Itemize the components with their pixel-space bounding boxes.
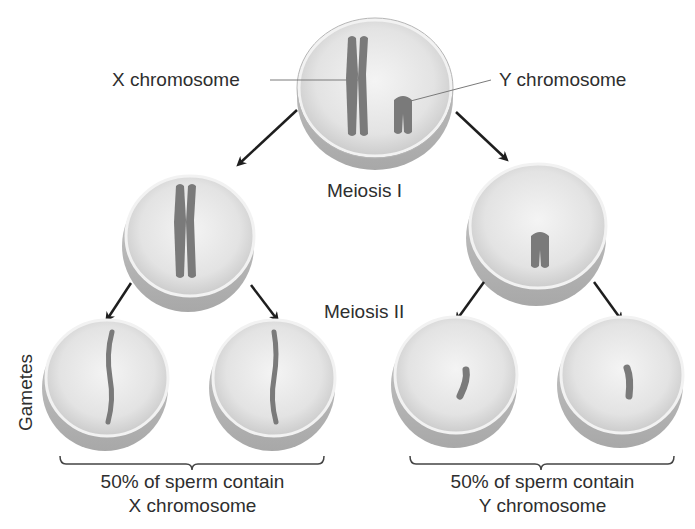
x-chromosome-label: X chromosome xyxy=(112,70,240,89)
arrow-to-y-gamete-2 xyxy=(594,282,620,318)
x-gamete-1 xyxy=(42,320,168,451)
y-gamete-2 xyxy=(557,317,683,448)
left-brace xyxy=(60,456,324,470)
x-gamete-2 xyxy=(209,320,335,451)
meiosis-1-label: Meiosis I xyxy=(327,181,402,200)
right-summary-line2: Y chromosome xyxy=(410,496,675,515)
arrow-to-y-cell xyxy=(456,112,505,158)
meiosis-2-label: Meiosis II xyxy=(324,302,404,321)
arrow-to-x-gamete-2 xyxy=(251,285,276,318)
meiosis1-x-cell xyxy=(122,176,254,312)
gametes-label: Gametes xyxy=(16,354,35,431)
parent-cell xyxy=(270,18,491,170)
right-brace xyxy=(410,456,674,470)
arrow-to-x-cell xyxy=(240,110,297,163)
left-summary-line2: X chromosome xyxy=(60,496,325,515)
meiosis1-y-cell xyxy=(466,164,606,306)
arrow-to-x-gamete-1 xyxy=(108,283,131,318)
arrow-to-y-gamete-1 xyxy=(458,282,484,318)
left-summary-line1: 50% of sperm contain xyxy=(60,472,325,491)
y-chromosome-label: Y chromosome xyxy=(499,70,626,89)
y-gamete-1 xyxy=(391,317,517,448)
right-summary-line1: 50% of sperm contain xyxy=(410,472,675,491)
